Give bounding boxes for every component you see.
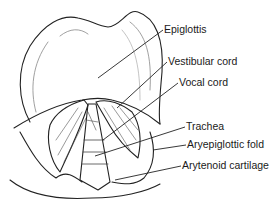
label-vestibular-cord: Vestibular cord (168, 55, 237, 67)
label-vocal-cord: Vocal cord (179, 76, 228, 88)
larynx-illustration (0, 0, 278, 205)
larynx-diagram: Epiglottis Vestibular cord Vocal cord Tr… (0, 0, 278, 205)
label-trachea: Trachea (186, 120, 224, 132)
label-aryepiglottic-fold: Aryepiglottic fold (187, 138, 264, 150)
label-epiglottis: Epiglottis (164, 23, 207, 35)
leader-lines (95, 30, 186, 180)
label-arytenoid-cartilage: Arytenoid cartilage (182, 159, 269, 171)
